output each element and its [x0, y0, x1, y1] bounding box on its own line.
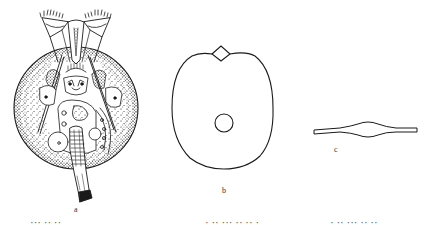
lorica-outline: [172, 53, 273, 169]
caption-part-a: ··· ·· ··: [30, 216, 61, 225]
panel-label-c: c: [334, 145, 338, 154]
scientific-figure: [0, 0, 428, 225]
caption-part-b: · ·· ··· ·· ·· ·: [205, 216, 259, 225]
anterior-notch: [212, 46, 230, 61]
central-pore: [215, 114, 233, 132]
left-lobe: [40, 85, 56, 105]
panel-label-a: a: [74, 205, 78, 214]
cross-section-outline: [314, 122, 417, 137]
panel-c-cross-section: [314, 122, 417, 137]
panel-a-rotifer: [14, 10, 138, 202]
panel-label-b: b: [222, 186, 226, 195]
caption-part-c: · ·· ··· ·· ··: [330, 216, 378, 225]
panel-b-lorica-outline: [172, 46, 273, 169]
figure-caption: ··· ·· ·· · ·· ··· ·· ·· · · ·· ··· ·· ·…: [0, 216, 428, 225]
